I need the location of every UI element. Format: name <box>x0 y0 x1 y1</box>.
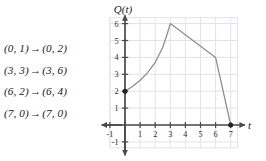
y-axis-tick-label: 5 <box>114 37 118 46</box>
axes <box>102 15 245 155</box>
x-axis-tick-label: 4 <box>183 130 187 139</box>
maps-to-arrow-icon: → <box>29 64 42 76</box>
mapping-target-point: (7, 0) <box>42 107 67 119</box>
curve-endpoint-dot <box>123 89 128 94</box>
y-axis-tick-label: 4 <box>114 53 118 62</box>
maps-to-arrow-icon: → <box>29 107 42 119</box>
mapping-source-point: (3, 3) <box>4 64 29 76</box>
mapping-source-point: (0, 1) <box>4 42 29 54</box>
y-axis-tick-label: 3 <box>114 70 118 79</box>
x-axis-tick-label: 1 <box>138 130 142 139</box>
mapping-source-point: (7, 0) <box>4 107 29 119</box>
x-axis-tick-label: 2 <box>153 130 157 139</box>
coordinate-mapping-list: (0, 1)→(0, 2) (3, 3)→(3, 6) (6, 2)→(6, 4… <box>4 38 96 124</box>
y-axis-tick-label: 2 <box>114 87 118 96</box>
mapping-row: (3, 3)→(3, 6) <box>4 60 96 82</box>
y-axis-tick-label: -1 <box>112 138 119 147</box>
mapping-source-point: (6, 2) <box>4 85 29 97</box>
gridlines <box>110 18 238 148</box>
maps-to-arrow-icon: → <box>29 85 42 97</box>
maps-to-arrow-icon: → <box>29 42 42 54</box>
mapping-target-point: (0, 2) <box>42 42 67 54</box>
plot-svg: -11234567-1123456 Q(t) t <box>96 0 266 161</box>
x-axis-tick-label: 6 <box>214 130 218 139</box>
x-axis-tick-label: 5 <box>198 130 202 139</box>
curve-endpoint-dot <box>228 123 233 128</box>
mapping-row: (0, 1)→(0, 2) <box>4 38 96 60</box>
x-axis-tick-label: 7 <box>229 130 233 139</box>
x-axis-label: t <box>248 119 252 131</box>
y-axis-label: Q(t) <box>114 3 133 16</box>
coordinate-plot: -11234567-1123456 Q(t) t <box>96 0 266 161</box>
x-axis-tick-label: 3 <box>168 130 172 139</box>
mapping-row: (6, 2)→(6, 4) <box>4 81 96 103</box>
mapping-row: (7, 0)→(7, 0) <box>4 103 96 125</box>
y-axis-tick-label: 1 <box>114 104 118 113</box>
math-figure: (0, 1)→(0, 2) (3, 3)→(3, 6) (6, 2)→(6, 4… <box>0 0 266 161</box>
mapping-target-point: (3, 6) <box>42 64 67 76</box>
mapping-target-point: (6, 4) <box>42 85 67 97</box>
y-axis-tick-label: 6 <box>114 20 118 29</box>
